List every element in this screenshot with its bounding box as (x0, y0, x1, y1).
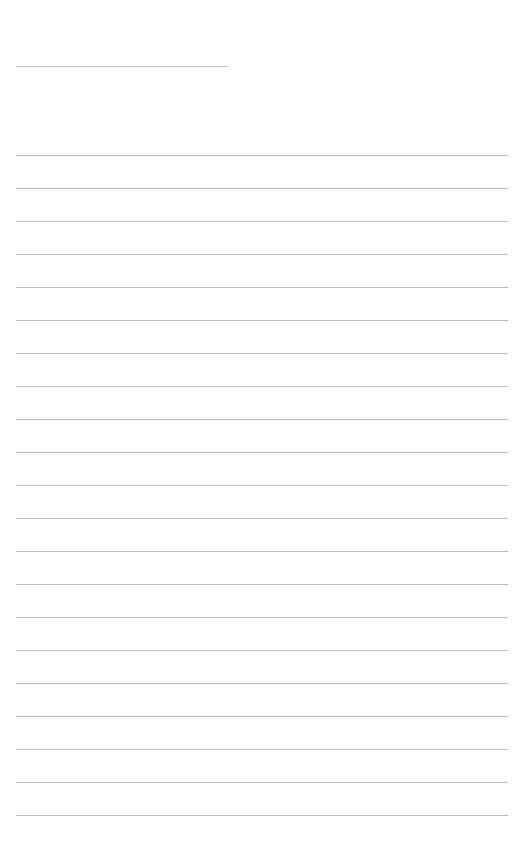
ruled-line (16, 716, 508, 717)
ruled-line (16, 485, 508, 486)
ruled-line (16, 353, 508, 354)
ruled-line (16, 815, 508, 816)
ruled-line (16, 683, 508, 684)
ruled-line (16, 419, 508, 420)
lined-paper-page (0, 0, 530, 866)
ruled-line (16, 749, 508, 750)
ruled-line (16, 221, 508, 222)
ruled-line (16, 617, 508, 618)
ruled-line (16, 452, 508, 453)
ruled-line (16, 782, 508, 783)
ruled-line (16, 518, 508, 519)
ruled-line (16, 155, 508, 156)
ruled-line (16, 254, 508, 255)
ruled-line (16, 386, 508, 387)
ruled-line (16, 584, 508, 585)
ruled-line (16, 551, 508, 552)
ruled-line (16, 188, 508, 189)
ruled-line (16, 650, 508, 651)
header-line (16, 66, 228, 67)
ruled-line (16, 287, 508, 288)
ruled-line (16, 320, 508, 321)
